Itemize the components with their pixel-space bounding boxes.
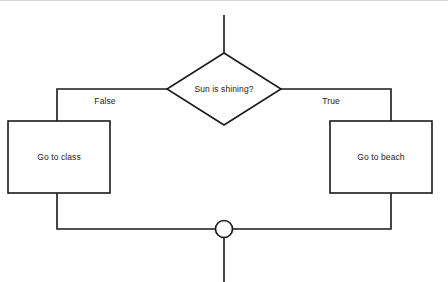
process-beach-label: Go to beach: [357, 152, 405, 162]
merge-junction-node[interactable]: [216, 221, 233, 238]
connector-class-to-merge: [57, 193, 216, 229]
branch-label-false: False: [94, 96, 115, 106]
flowchart-canvas: Sun is shining? Go to class Go to beach …: [0, 0, 448, 282]
process-node-go-to-class[interactable]: Go to class: [8, 121, 110, 193]
connector-beach-to-merge: [233, 193, 392, 229]
decision-label: Sun is shining?: [194, 84, 253, 94]
flowchart-svg: Sun is shining? Go to class Go to beach …: [0, 1, 448, 282]
decision-node-sun-is-shining[interactable]: Sun is shining?: [167, 53, 281, 125]
process-class-label: Go to class: [37, 152, 81, 162]
process-node-go-to-beach[interactable]: Go to beach: [330, 121, 432, 193]
branch-label-true: True: [322, 96, 340, 106]
